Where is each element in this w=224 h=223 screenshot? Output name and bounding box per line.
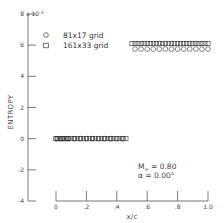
square-marker-icon [54,137,58,141]
circle-marker-icon [72,136,77,141]
axes [28,14,208,201]
y-tick-labels: -4-202468 [18,10,24,204]
square-marker-icon [182,42,186,46]
square-marker-icon [115,137,119,141]
circle-marker-icon [108,136,113,141]
legend: 81x17 grid 161x33 grid [44,31,109,51]
square-marker-icon [185,42,189,46]
circle-marker-icon [96,136,101,141]
square-marker-icon [90,137,94,141]
x-axis-title: x/c [126,213,137,221]
square-marker-icon [166,42,170,46]
circle-marker-icon [139,47,144,52]
square-marker-icon [148,42,152,46]
square-marker-icon [179,42,183,46]
square-marker-icon [197,42,201,46]
circle-marker-icon [163,47,168,52]
square-marker-icon [172,42,176,46]
circle-marker-icon [66,136,71,141]
legend-label: 161x33 grid [63,41,109,50]
square-marker-icon [133,42,137,46]
square-marker-icon [151,42,155,46]
square-marker-icon [160,42,164,46]
square-marker-icon [194,42,198,46]
square-marker-icon [78,137,82,141]
circle-marker-icon [175,47,180,52]
square-marker-icon [142,42,146,46]
square-marker-icon [191,42,195,46]
square-marker-icon [72,137,76,141]
entropy-chart: -4-202468 0.2.4.6.81.0 x 10-3 ENTROPY x/… [0,0,224,223]
square-marker-icon [84,137,88,141]
legend-label: 81x17 grid [63,31,104,40]
square-marker-icon [169,42,173,46]
y-tick-label: 4 [20,72,24,79]
x-tick-label: .2 [84,203,90,210]
circle-marker-icon [133,47,138,52]
legend-item-161x33: 161x33 grid [44,41,109,50]
square-marker-icon [163,42,167,46]
y-tick-label: 0 [20,135,24,142]
square-marker-icon [130,42,134,46]
y-multiplier-label: x 10-3 [26,10,44,18]
x-tick-label: 1.0 [203,203,213,210]
y-tick-label: -4 [18,197,24,204]
circle-marker-icon [200,47,205,52]
circle-marker-icon [145,47,150,52]
circle-marker-icon [84,136,89,141]
x-tick-label: 0 [54,203,58,210]
y-tick-label: 2 [20,104,24,111]
square-marker-icon [136,42,140,46]
square-marker-icon [157,42,161,46]
x-tick-label: .8 [175,203,181,210]
circle-marker-icon [78,136,83,141]
circle-marker-icon [120,136,125,141]
circle-marker-icon [206,47,211,52]
circle-marker-icon [102,136,107,141]
square-marker-icon [66,137,70,141]
legend-item-81x17: 81x17 grid [44,31,104,40]
circle-marker-icon [169,47,174,52]
angle-of-attack-label: α = 0.00° [138,171,175,180]
x-tick-label: .4 [114,203,120,210]
square-marker-icon [121,137,125,141]
x-tick-labels: 0.2.4.6.81.0 [54,203,213,210]
square-marker-icon [44,43,49,48]
square-marker-icon [96,137,100,141]
circle-marker-icon [187,47,192,52]
circle-marker-icon [157,47,162,52]
y-tick-label: -2 [18,166,24,173]
circle-marker-icon [60,136,65,141]
circle-marker-icon [44,33,49,38]
square-marker-icon [206,42,210,46]
circle-marker-icon [151,47,156,52]
square-marker-icon [188,42,192,46]
square-marker-icon [145,42,149,46]
square-marker-icon [200,42,204,46]
square-marker-icon [60,137,64,141]
y-tick-label: 6 [20,41,24,48]
circle-marker-icon [193,47,198,52]
y-axis-title: ENTROPY [7,94,15,129]
circle-marker-icon [114,136,119,141]
square-marker-icon [176,42,180,46]
square-marker-icon [203,42,207,46]
circle-marker-icon [90,136,95,141]
y-tick-label: 8 [20,10,24,17]
x-tick-label: .6 [144,203,150,210]
circle-marker-icon [54,136,59,141]
square-marker-icon [139,42,143,46]
square-marker-icon [103,137,107,141]
flow-conditions-annotation: M∞ = 0.80 α = 0.00° [138,162,177,180]
data-points [54,42,211,142]
square-marker-icon [109,137,113,141]
square-marker-icon [154,42,158,46]
circle-marker-icon [181,47,186,52]
